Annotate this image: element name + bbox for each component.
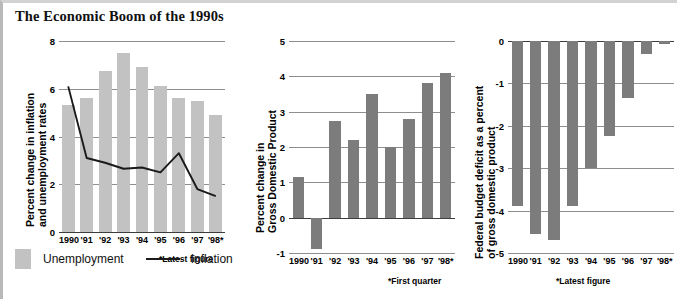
y-axis-tick-label: 2 <box>50 179 55 190</box>
y-axis-tick-label: 0 <box>50 227 55 238</box>
x-axis-tick-label: '94 <box>363 256 381 266</box>
legend-label-unemployment: Unemployment <box>43 252 124 266</box>
bar <box>548 41 559 240</box>
x-axis-tick-label: '94 <box>582 256 600 266</box>
x-axis-tick-label: '95 <box>151 235 169 245</box>
bar <box>293 177 304 218</box>
y-axis-tick-label: 3 <box>280 106 285 117</box>
y-axis-tick-label: -5 <box>496 248 504 259</box>
inflation-line-series <box>59 41 225 232</box>
chart2-plot-area: -10123451990'91'92'93'94'95'96'97'98* <box>289 41 455 253</box>
y-axis-tick-label: -4 <box>496 205 504 216</box>
legend-label-inflation: Inflation <box>191 252 233 266</box>
x-axis-tick-label: '95 <box>600 256 618 266</box>
gridline <box>289 253 455 254</box>
chart2-ylabel-line2: Gross Domestic Product <box>267 110 279 233</box>
y-axis-tick-label: 1 <box>280 177 285 188</box>
y-axis-tick-label: -2 <box>496 120 504 131</box>
x-axis-tick-label: '95 <box>381 256 399 266</box>
gridline <box>289 76 455 77</box>
y-axis-tick-label: 2 <box>280 142 285 153</box>
legend: Unemployment Inflation <box>15 249 233 269</box>
page-title: The Economic Boom of the 1990s <box>15 8 224 25</box>
bar <box>366 94 377 218</box>
x-axis-tick-label: '94 <box>133 235 151 245</box>
chart1-plot-area: 024681990'91'92'93'94'95'96'97'98* <box>59 41 225 232</box>
x-axis-tick-label: '96 <box>619 256 637 266</box>
bar <box>659 41 670 44</box>
x-axis-tick-label: '97 <box>637 256 655 266</box>
y-axis-tick-label: -3 <box>496 163 504 174</box>
x-axis-tick-label: '92 <box>326 256 344 266</box>
gridline <box>289 41 455 42</box>
bar <box>329 121 340 218</box>
x-axis-tick-label: '92 <box>96 235 114 245</box>
x-axis-tick-label: '93 <box>563 256 581 266</box>
y-axis-tick-label: 8 <box>50 36 55 47</box>
y-axis-tick-label: 4 <box>50 131 55 142</box>
y-axis-tick-label: 4 <box>280 71 285 82</box>
infographic-page: The Economic Boom of the 1990s Percent c… <box>0 0 677 299</box>
gridline <box>59 232 225 233</box>
bar <box>403 119 414 218</box>
legend-line-inflation <box>146 258 180 260</box>
x-axis-tick-label: '98* <box>656 256 674 266</box>
bar <box>348 140 359 218</box>
x-axis-tick-label: '96 <box>400 256 418 266</box>
y-axis-tick-label: 0 <box>499 36 504 47</box>
x-axis-tick-label: '91 <box>307 256 325 266</box>
y-axis-tick-label: -1 <box>496 78 504 89</box>
bar <box>512 41 523 206</box>
x-axis-tick-label: 1990 <box>289 256 307 266</box>
chart3-ylabel-line2: of gross domestic product <box>486 127 498 259</box>
chart2-ylabel-line1: Percent change in <box>255 143 267 233</box>
chart1-ylabel-line1: Percent change in inflation <box>25 93 37 227</box>
x-axis-tick-label: '92 <box>545 256 563 266</box>
x-axis-tick-label: '91 <box>77 235 95 245</box>
bar <box>641 41 652 54</box>
x-axis-tick-label: '96 <box>170 235 188 245</box>
y-axis-tick-label: -1 <box>277 248 285 259</box>
bar <box>585 41 596 168</box>
chart2-footnote: *First quarter <box>388 276 441 286</box>
x-axis-tick-label: '93 <box>344 256 362 266</box>
bar <box>385 147 396 218</box>
bar <box>530 41 541 234</box>
x-axis-tick-label: '97 <box>188 235 206 245</box>
bar <box>567 41 578 206</box>
y-axis-tick-label: 5 <box>280 36 285 47</box>
chart3-footnote: *Latest figure <box>556 276 610 286</box>
legend-swatch-unemployment <box>15 249 31 269</box>
gridline <box>508 253 674 254</box>
y-axis-tick-label: 6 <box>50 83 55 94</box>
chart3-plot-area: -5-4-3-2-101990'91'92'93'94'95'96'97'98* <box>508 41 674 253</box>
chart1-ylabel-line2: and unemployment rates <box>37 103 49 227</box>
x-axis-tick-label: '98* <box>437 256 455 266</box>
bar <box>440 73 451 218</box>
bar <box>622 41 633 98</box>
x-axis-tick-label: 1990 <box>59 235 77 245</box>
bar <box>311 218 322 250</box>
chart3-ylabel-line1: Federal budget deficit as a percent <box>474 86 486 259</box>
y-axis-tick-label: 0 <box>280 212 285 223</box>
x-axis-tick-label: '91 <box>526 256 544 266</box>
bar <box>422 83 433 217</box>
x-axis-tick-label: 1990 <box>508 256 526 266</box>
x-axis-tick-label: '93 <box>114 235 132 245</box>
bar <box>604 41 615 136</box>
x-axis-tick-label: '98* <box>207 235 225 245</box>
x-axis-tick-label: '97 <box>418 256 436 266</box>
